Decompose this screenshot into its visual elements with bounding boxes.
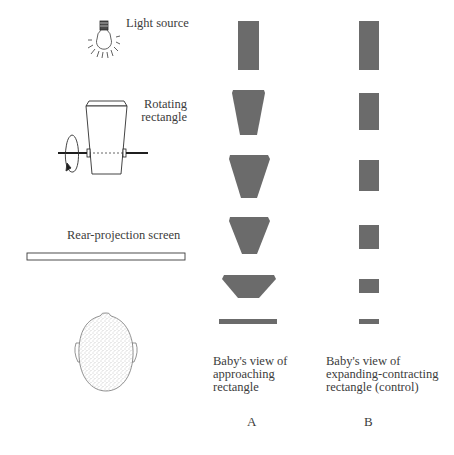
caption-a-line3: rectangle [213,381,287,394]
b-frame-3 [359,160,379,191]
a-frame-1 [238,21,259,70]
column-a-caption: Baby's view of approaching rectangle [213,355,287,395]
column-b-caption: Baby's view of expanding-contracting rec… [326,355,438,395]
a-frame-3 [229,155,270,198]
a-frame-4 [229,217,270,254]
rotating-label-line2: rectangle [141,111,187,124]
baby-head-icon [75,313,137,391]
a-frame-6 [219,319,277,324]
column-a-letter: A [247,414,256,430]
caption-b-line3: rectangle (control) [326,381,438,394]
projection-screen-icon [27,253,185,260]
rotating-rectangle-label: Rotating rectangle [141,98,187,124]
b-frame-4 [359,225,379,249]
column-b-letter: B [364,414,373,430]
screen-label: Rear-projection screen [67,229,180,242]
b-frame-2 [359,93,379,130]
a-frame-2 [232,90,265,135]
b-frame-6 [359,319,379,324]
b-frame-1 [359,21,379,70]
b-frame-5 [359,279,379,293]
column-a-shapes [219,21,277,324]
a-frame-5 [222,275,276,298]
light-bulb-icon [88,21,120,58]
rotating-rectangle-icon [86,101,127,174]
column-b-shapes [359,21,379,324]
light-source-label: Light source [126,17,189,30]
